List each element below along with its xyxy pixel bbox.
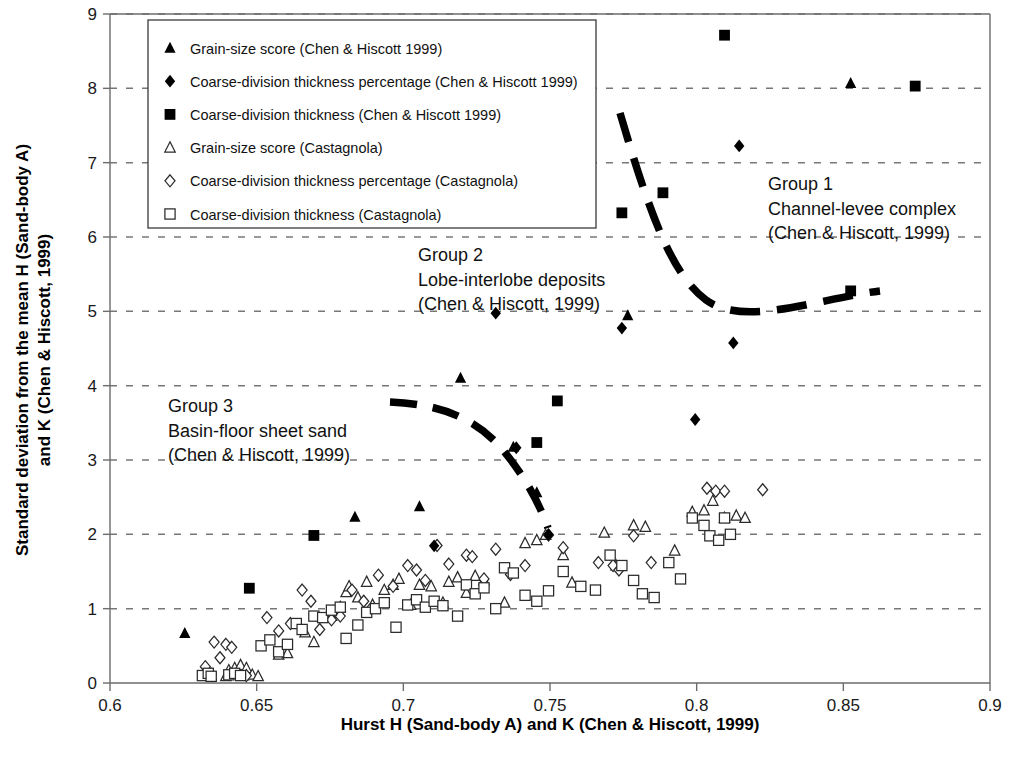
legend-label-1: Coarse-division thickness percentage (Ch… [190,74,578,90]
point-open-square [576,581,586,591]
group-2-annotation-line-1: Lobe-interlobe deposits [418,270,605,290]
point-open-square [479,583,489,593]
point-filled-square [719,30,730,41]
point-open-square [664,557,674,567]
x-axis-title: Hurst H (Sand-body A) and K (Chen & Hisc… [341,715,760,734]
point-open-square [558,566,568,576]
legend-label-0: Grain-size score (Chen & Hiscott 1999) [190,41,442,57]
point-open-square [532,596,542,606]
point-open-square [341,633,351,643]
point-open-square [297,624,307,634]
point-filled-square [308,530,319,541]
point-open-square [508,568,518,578]
point-open-square [649,592,659,602]
legend-marker-filled-square [165,109,176,120]
x-tick-label-0.6: 0.6 [98,696,122,715]
point-open-square [629,575,639,585]
point-open-square [353,620,363,630]
scatter-plot-figure: 0123456789 0.60.650.70.750.80.850.9 Grai… [0,0,1016,758]
x-tick-label-0.9: 0.9 [978,696,1002,715]
legend-label-2: Coarse-division thickness (Chen & Hiscot… [190,107,501,123]
point-filled-square [616,207,627,218]
point-filled-square [658,187,669,198]
point-open-square [675,574,685,584]
y-tick-label-1: 1 [88,600,97,619]
point-open-square [617,560,627,570]
point-open-square [590,585,600,595]
point-open-square [605,550,615,560]
legend-label-3: Grain-size score (Castagnola) [190,140,383,156]
group-3-annotation-line-0: Group 3 [168,396,233,416]
y-tick-label-9: 9 [88,5,97,24]
x-tick-label-0.85: 0.85 [827,696,860,715]
x-tick-label-0.65: 0.65 [240,696,273,715]
point-open-square [206,671,216,681]
point-filled-square [910,81,921,92]
point-open-square [719,513,729,523]
point-open-square [282,639,292,649]
y-tick-label-0: 0 [88,674,97,693]
x-tick-label-0.7: 0.7 [392,696,416,715]
y-axis-title-line2: and K (Chen & Hiscott, 1999) [35,234,54,466]
x-tick-label-0.8: 0.8 [685,696,709,715]
legend-marker-open-square [165,209,175,219]
group-1-annotation-line-2: (Chen & Hiscott, 1999) [768,223,950,243]
group-3-annotation-line-1: Basin-floor sheet sand [168,421,347,441]
point-open-square [725,529,735,539]
y-tick-label-8: 8 [88,79,97,98]
point-open-square [520,590,530,600]
point-filled-square [845,285,856,296]
legend-label-4: Coarse-division thickness percentage (Ca… [190,173,518,189]
y-tick-label-3: 3 [88,451,97,470]
point-open-square [714,535,724,545]
legend-label-5: Coarse-division thickness (Castagnola) [190,207,441,223]
y-tick-label-6: 6 [88,228,97,247]
point-open-square [699,520,709,530]
point-open-square [235,670,245,680]
group-1-annotation-line-0: Group 1 [768,174,833,194]
point-open-square [391,622,401,632]
point-open-square [637,589,647,599]
point-open-square [453,611,463,621]
y-tick-label-7: 7 [88,154,97,173]
chart-canvas: 0123456789 0.60.650.70.750.80.850.9 Grai… [0,0,1016,758]
point-open-square [335,602,345,612]
point-open-square [491,604,501,614]
point-filled-square [552,396,563,407]
group-2-annotation-line-0: Group 2 [418,245,483,265]
point-open-square [379,598,389,608]
group-1-annotation-line-1: Channel-levee complex [768,199,956,219]
legend: Grain-size score (Chen & Hiscott 1999)Co… [148,20,596,228]
y-tick-label-2: 2 [88,525,97,544]
point-open-square [687,513,697,523]
point-open-square [543,586,553,596]
point-filled-square [531,437,542,448]
point-filled-square [244,583,255,594]
x-tick-label-0.75: 0.75 [533,696,566,715]
group-3-annotation-line-2: (Chen & Hiscott, 1999) [168,445,350,465]
point-open-square [265,635,275,645]
y-tick-label-4: 4 [88,377,97,396]
y-axis-title-line1: Standard deviation from the mean H (Sand… [13,144,32,556]
point-open-square [438,601,448,611]
group-2-annotation-line-2: (Chen & Hiscott, 1999) [418,294,600,314]
y-tick-label-5: 5 [88,302,97,321]
